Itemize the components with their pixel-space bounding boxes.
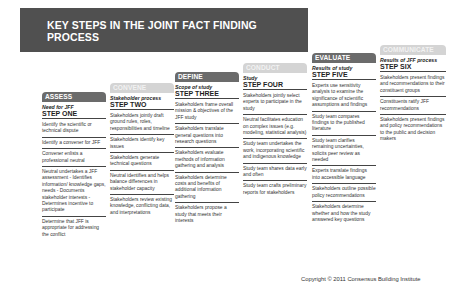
list-item: Stakeholders determine whether and how t… xyxy=(312,203,376,225)
list-item: Study team shares data early and often xyxy=(243,165,307,182)
diagram-title-bar: KEY STEPS IN THE JOINT FACT FINDING PROC… xyxy=(20,8,308,52)
list-item: Stakeholders generate technical question… xyxy=(110,154,174,171)
list-item: Stakeholders jointly draft ground rules,… xyxy=(110,112,174,135)
step-label: STEP FIVE xyxy=(312,71,376,80)
list-item: Constituents ratify JFF recommendations xyxy=(380,98,446,115)
tab-evaluate: EVALUATE xyxy=(312,53,376,63)
list-item: Convener enlists a professional neutral xyxy=(42,150,106,167)
column-assess: ASSESS Need for JFF STEP ONE Identify th… xyxy=(42,92,106,241)
list-item: Stakeholders evaluate methods of informa… xyxy=(175,149,239,172)
step-label: STEP THREE xyxy=(175,90,239,99)
list-item: Stakeholders frame overall mission & obj… xyxy=(175,101,239,124)
diagram-title: KEY STEPS IN THE JOINT FACT FINDING PROC… xyxy=(47,19,308,43)
list-item: Determine that JFF is appropriate for ad… xyxy=(42,218,106,240)
list-item: Study team compares findings to the publ… xyxy=(312,113,376,136)
list-item: Experts use sensitivity analysis to exam… xyxy=(312,82,376,112)
column-define: DEFINE Scope of study STEP THREE Stakeho… xyxy=(175,72,239,228)
column-communicate: COMMUNICATE Results of JFF process STEP … xyxy=(380,45,446,146)
list-item: Stakeholders present findings and recomm… xyxy=(380,74,446,97)
tab-communicate: COMMUNICATE xyxy=(380,45,446,55)
tab-assess: ASSESS xyxy=(42,92,106,102)
step-label: STEP TWO xyxy=(110,101,174,110)
step-label: STEP FOUR xyxy=(243,81,307,90)
list-item: Stakeholders outline possible policy rec… xyxy=(312,185,376,202)
step-label: STEP SIX xyxy=(380,63,446,72)
list-item: Neutral identifies and helps balance dif… xyxy=(110,172,174,195)
column-conduct: CONDUCT Study STEP FOUR Stakeholders joi… xyxy=(243,63,307,199)
list-item: Stakeholders review existing knowledge, … xyxy=(110,196,174,218)
list-item: Stakeholders present findings and policy… xyxy=(380,116,446,145)
list-item: Study team undertakes the work, incorpor… xyxy=(243,140,307,163)
column-evaluate: EVALUATE Results of study STEP FIVE Expe… xyxy=(312,53,376,226)
tab-convene: CONVENE xyxy=(110,83,174,93)
list-item: Identify a convener for JFF xyxy=(42,139,106,149)
list-item: Study team crafts preliminary reports fo… xyxy=(243,182,307,198)
list-item: Experts translate findings into accessib… xyxy=(312,167,376,184)
list-item: Stakeholders translate general questions… xyxy=(175,125,239,148)
list-item: Stakeholders jointly select experts to p… xyxy=(243,92,307,115)
list-item: Neutral facilitates education on complex… xyxy=(243,116,307,139)
list-item: Stakeholders propose a study that meets … xyxy=(175,204,239,226)
tab-define: DEFINE xyxy=(175,72,239,82)
list-item: Identify the scientific or technical dis… xyxy=(42,121,106,138)
step-label: STEP ONE xyxy=(42,110,106,119)
list-item: Neutral undertakes a JFF assessment - Id… xyxy=(42,168,106,217)
tab-conduct: CONDUCT xyxy=(243,63,307,73)
list-item: Stakeholders identify key issues xyxy=(110,136,174,153)
column-convene: CONVENE Stakeholder process STEP TWO Sta… xyxy=(110,83,174,219)
copyright-notice: Copyright © 2011 Consensus Building Inst… xyxy=(301,276,421,282)
list-item: Study team clarifies remaining uncertain… xyxy=(312,137,376,167)
list-item: Stakeholders determine costs and benefit… xyxy=(175,174,239,204)
